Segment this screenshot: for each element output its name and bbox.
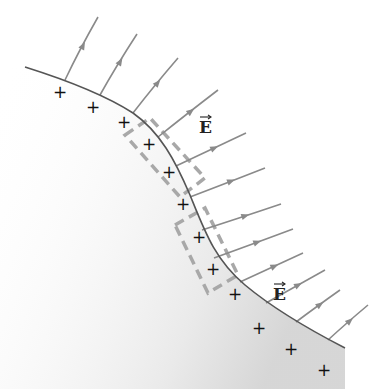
plus-charge-icon: +: [206, 259, 220, 279]
plus-charge-icon: +: [117, 112, 131, 132]
field-line: [214, 229, 293, 258]
plus-charge-icon: +: [317, 360, 331, 380]
arrowhead-icon: [293, 280, 303, 289]
plus-charge-icon: +: [284, 339, 298, 359]
plus-charge-icon: +: [142, 134, 156, 154]
field-vector-label: E: [273, 284, 286, 304]
plus-charge-icon: +: [252, 318, 266, 338]
arrowhead-icon: [253, 238, 263, 247]
plus-charge-icon: +: [162, 162, 176, 182]
field-vector-label: E: [199, 117, 212, 137]
arrowhead-icon: [241, 211, 251, 220]
plus-charge-icon: +: [192, 227, 206, 247]
plus-charge-icon: +: [53, 82, 67, 102]
plus-charge-icon: +: [228, 284, 242, 304]
arrowhead-icon: [226, 177, 236, 186]
arrowhead-icon: [270, 261, 280, 270]
field-line: [202, 204, 281, 230]
plus-charge-icon: +: [176, 194, 190, 214]
conductor-field-diagram: ++++++++++++ EE: [0, 0, 375, 389]
plus-charge-icon: +: [86, 97, 100, 117]
arrowhead-icon: [210, 143, 220, 152]
